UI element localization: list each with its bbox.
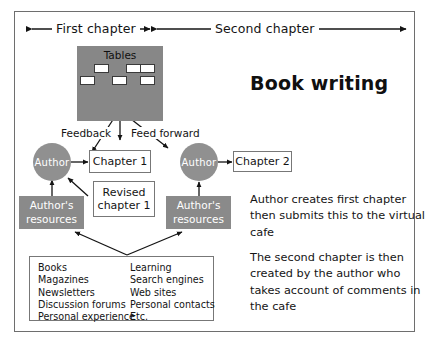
span-label-second-chapter: Second chapter (211, 21, 319, 36)
chapter-2-box[interactable]: Chapter 2 (233, 151, 292, 172)
authors-resources-box-left[interactable]: Author's resources (19, 196, 84, 229)
chapter-1-box[interactable]: Chapter 1 (89, 150, 151, 173)
note-paragraph-1: Author creates first chapter then submit… (250, 192, 425, 241)
list-item: Magazines (38, 274, 135, 286)
authors-resources-box-right[interactable]: Author's resources (166, 196, 231, 229)
authors-resources-left-line-2: resources (26, 213, 77, 226)
list-item: Discussion forums (38, 299, 135, 311)
table-node (94, 64, 109, 73)
resources-column-left: Books Magazines Newsletters Discussion f… (38, 262, 135, 323)
table-node (80, 76, 95, 85)
table-node (112, 76, 127, 85)
tables-block: Tables (77, 46, 163, 121)
note-paragraph-2: The second chapter is then created by th… (250, 250, 425, 316)
page-title: Book writing (250, 72, 388, 94)
revised-chapter-line-1: Revised (103, 186, 146, 199)
list-item: Learning (130, 262, 215, 274)
tables-label: Tables (77, 49, 163, 61)
revised-chapter-1-box[interactable]: Revised chapter 1 (93, 181, 155, 217)
revised-chapter-line-2: chapter 1 (98, 199, 151, 212)
list-item: Books (38, 262, 135, 274)
author-node-right[interactable]: Author (180, 143, 218, 181)
flow-label-feed-forward: Feed forward (130, 127, 201, 139)
authors-resources-left-line-1: Author's (30, 199, 74, 212)
flow-label-feedback: Feedback (60, 127, 112, 139)
diagram-canvas: First chapter Second chapter Tables Feed… (0, 0, 430, 349)
table-node (140, 76, 155, 85)
span-label-first-chapter: First chapter (52, 21, 140, 36)
table-node (140, 64, 155, 73)
list-item: Personal contacts (130, 299, 215, 311)
list-item: Newsletters (38, 287, 135, 299)
authors-resources-right-line-2: resources (173, 213, 224, 226)
authors-resources-right-line-1: Author's (177, 199, 221, 212)
list-item: Personal experience (38, 311, 135, 323)
list-item: Web sites (130, 287, 215, 299)
list-item: Etc. (130, 311, 215, 323)
resources-column-right: Learning Search engines Web sites Person… (130, 262, 215, 323)
resources-list-box: Books Magazines Newsletters Discussion f… (29, 256, 214, 321)
table-node (126, 64, 141, 73)
author-node-left[interactable]: Author (33, 143, 71, 181)
list-item: Search engines (130, 274, 215, 286)
